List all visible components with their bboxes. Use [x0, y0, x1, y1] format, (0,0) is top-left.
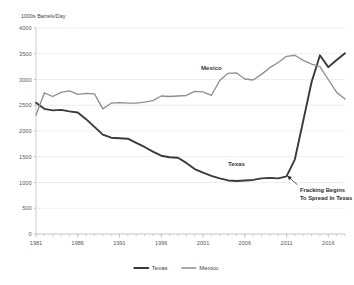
y-axis-tick-label: 2000	[19, 128, 31, 134]
y-axis-tick-label: 2500	[19, 102, 31, 108]
x-axis-tick-label: 1991	[113, 240, 125, 246]
chart-container: 05001000150020002500300035004000 1981198…	[0, 0, 354, 285]
line-chart: 05001000150020002500300035004000 1981198…	[0, 0, 354, 285]
x-axis-tick-label: 2006	[239, 240, 251, 246]
legend-label-mexico: Mexico	[199, 265, 219, 271]
x-axis-tick-label: 2001	[197, 240, 209, 246]
y-axis-tick-label: 1500	[19, 154, 31, 160]
y-axis-tick-label: 3500	[19, 51, 31, 57]
legend-label-texas: Texas	[152, 265, 168, 271]
x-axis-tick-label: 2016	[322, 240, 334, 246]
y-axis-tick-label: 1000	[19, 180, 31, 186]
annotation-line-0-0: Fracking Begins	[300, 187, 345, 193]
x-axis-tick-label: 1986	[72, 240, 84, 246]
y-axis-tick-label: 500	[22, 205, 31, 211]
chart-background	[0, 0, 354, 285]
y-axis-unit-label: 1000s Barrels/Day	[21, 13, 66, 19]
x-axis-tick-label: 2011	[281, 240, 293, 246]
y-axis-tick-label: 4000	[19, 25, 31, 31]
series-label-texas: Texas	[228, 160, 246, 167]
x-axis-tick-label: 1981	[30, 240, 42, 246]
y-axis-tick-label: 0	[28, 231, 31, 237]
x-axis-tick-label: 1996	[155, 240, 167, 246]
series-label-mexico: Mexico	[201, 64, 222, 71]
y-axis-tick-label: 3000	[19, 77, 31, 83]
annotation-line-0-1: To Spread In Texas	[300, 195, 352, 201]
